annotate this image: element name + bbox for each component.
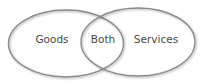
services-label: Services [134, 32, 178, 46]
goods-label: Goods [35, 32, 68, 46]
both-intersection-label: Both [91, 32, 115, 46]
